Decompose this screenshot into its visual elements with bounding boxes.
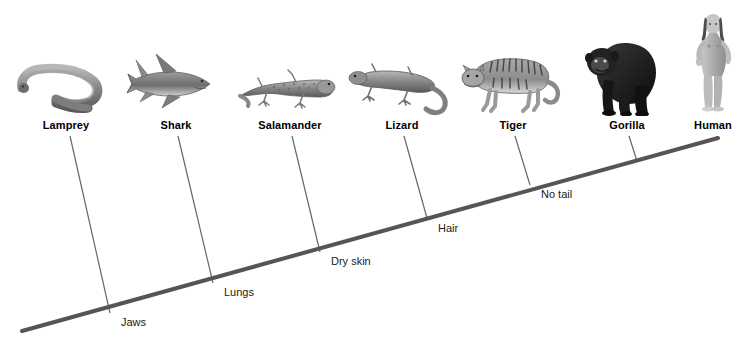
taxon-label-human: Human bbox=[694, 119, 732, 131]
taxon-label-salamander: Salamander bbox=[258, 119, 321, 131]
main-lineage-line-group bbox=[22, 138, 718, 331]
gorilla-illustration bbox=[578, 18, 662, 116]
taxon-label-tiger: Tiger bbox=[499, 119, 526, 131]
branch-line-shark bbox=[178, 136, 213, 283]
taxon-label-shark: Shark bbox=[160, 119, 191, 131]
branch-lines-group bbox=[70, 136, 637, 313]
lamprey-illustration bbox=[16, 58, 116, 116]
taxon-label-gorilla: Gorilla bbox=[609, 119, 645, 131]
branch-line-lizard bbox=[404, 136, 427, 218]
main-lineage-line bbox=[22, 138, 718, 331]
cladogram-figure: LampreySharkSalamanderLizardTigerGorilla… bbox=[0, 0, 746, 341]
human-illustration bbox=[687, 8, 739, 116]
trait-label-lungs: Lungs bbox=[224, 286, 254, 298]
trait-label-hair: Hair bbox=[438, 222, 458, 234]
trait-label-jaws: Jaws bbox=[121, 316, 146, 328]
tiger-illustration bbox=[456, 38, 564, 116]
branch-line-tiger bbox=[515, 136, 530, 185]
branch-line-lamprey bbox=[70, 136, 110, 313]
trait-label-no-tail: No tail bbox=[541, 188, 572, 200]
trait-label-dry-skin: Dry skin bbox=[331, 255, 371, 267]
taxon-label-lizard: Lizard bbox=[386, 119, 419, 131]
branch-line-salamander bbox=[292, 136, 320, 252]
taxon-label-lamprey: Lamprey bbox=[43, 119, 90, 131]
shark-illustration bbox=[122, 46, 218, 116]
salamander-illustration bbox=[234, 56, 340, 116]
branch-line-gorilla bbox=[629, 136, 637, 161]
lizard-illustration bbox=[346, 52, 454, 116]
